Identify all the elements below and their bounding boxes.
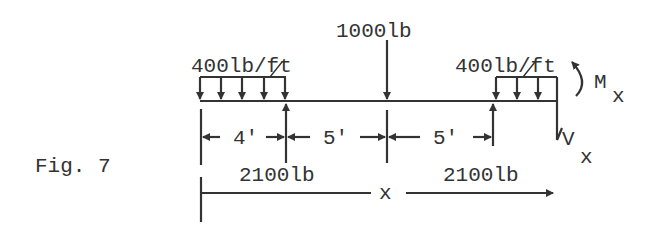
dist-load-right-label: 400lb/ft bbox=[455, 55, 556, 78]
moment-label: M bbox=[594, 71, 607, 94]
position-variable: x bbox=[379, 182, 392, 205]
dimension-5ft-a: 5' bbox=[323, 127, 348, 150]
reaction-right-label: 2100lb bbox=[443, 164, 519, 187]
beam-diagram: 1000lb 400lb/ft 400lb/ft M x V x 4' 5' 5… bbox=[0, 0, 662, 235]
moment-arc-icon bbox=[572, 62, 582, 96]
moment-subscript: x bbox=[612, 85, 625, 108]
dist-load-left-label: 400lb/ft bbox=[191, 55, 292, 78]
shear-subscript: x bbox=[580, 146, 593, 169]
figure-caption: Fig. 7 bbox=[35, 155, 111, 178]
shear-label: V bbox=[562, 128, 575, 151]
point-load-label: 1000lb bbox=[336, 20, 412, 43]
dimension-4ft: 4' bbox=[233, 127, 258, 150]
dimension-5ft-b: 5' bbox=[433, 127, 458, 150]
reaction-left-label: 2100lb bbox=[239, 164, 315, 187]
